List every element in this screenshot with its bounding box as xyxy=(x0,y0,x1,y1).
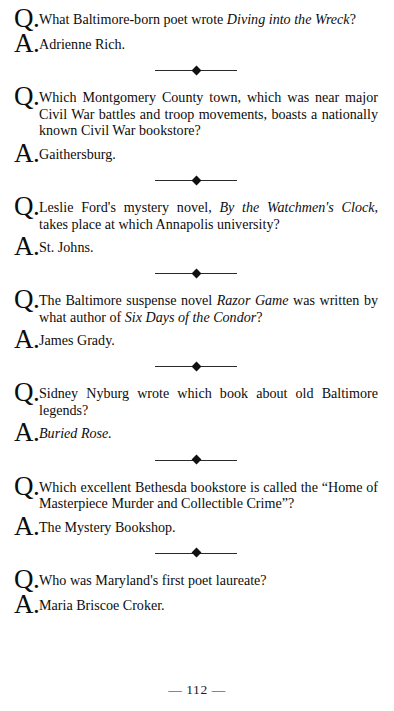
answer-text: Adrienne Rich. xyxy=(38,30,378,52)
question-text: Which Montgomery County town, which was … xyxy=(38,84,378,138)
question-block: Q.Leslie Ford's mystery novel, By the Wa… xyxy=(14,194,378,232)
answer-text: Buried Rose. xyxy=(38,419,378,441)
answer-text: Maria Briscoe Croker. xyxy=(38,591,378,613)
spacer xyxy=(14,443,378,454)
question-marker: Q. xyxy=(14,381,38,404)
question-marker: Q. xyxy=(14,195,38,218)
spacer xyxy=(14,349,378,360)
answer-text: St. Johns. xyxy=(38,233,378,255)
answer-marker: A. xyxy=(14,328,38,351)
diamond-icon xyxy=(191,268,201,278)
diamond-separator xyxy=(14,547,378,560)
question-text: Sidney Nyburg wrote which book about old… xyxy=(38,380,378,418)
spacer xyxy=(14,280,378,287)
qa-list: Q.What Baltimore-born poet wrote Diving … xyxy=(14,6,378,614)
diamond-icon xyxy=(191,65,201,75)
question-text: The Baltimore suspense novel Razor Game … xyxy=(38,287,378,325)
spacer xyxy=(14,467,378,474)
answer-block: A.Maria Briscoe Croker. xyxy=(14,591,378,614)
answer-text: James Grady. xyxy=(38,326,378,348)
answer-marker: A. xyxy=(14,593,38,616)
question-marker: Q. xyxy=(14,85,38,108)
answer-block: A.James Grady. xyxy=(14,326,378,349)
answer-block: A.Buried Rose. xyxy=(14,419,378,442)
spacer xyxy=(14,256,378,267)
question-text: Who was Maryland's first poet laureate? xyxy=(38,567,378,588)
question-text: Which excellent Bethesda bookstore is ca… xyxy=(38,474,378,512)
answer-marker: A. xyxy=(14,235,38,258)
spacer xyxy=(14,187,378,194)
spacer xyxy=(14,77,378,84)
answer-marker: A. xyxy=(14,142,38,165)
answer-text: The Mystery Bookshop. xyxy=(38,513,378,535)
answer-marker: A. xyxy=(14,515,38,538)
answer-block: A.St. Johns. xyxy=(14,233,378,256)
question-block: Q.Which excellent Bethesda bookstore is … xyxy=(14,474,378,512)
answer-block: A.Gaithersburg. xyxy=(14,140,378,163)
answer-block: A.The Mystery Bookshop. xyxy=(14,513,378,536)
book-page: Q.What Baltimore-born poet wrote Diving … xyxy=(0,0,394,711)
question-block: Q.The Baltimore suspense novel Razor Gam… xyxy=(14,287,378,325)
question-text: Leslie Ford's mystery novel, By the Watc… xyxy=(38,194,378,232)
diamond-separator xyxy=(14,267,378,280)
answer-block: A.Adrienne Rich. xyxy=(14,30,378,53)
spacer xyxy=(14,536,378,547)
question-marker: Q. xyxy=(14,568,38,591)
spacer xyxy=(14,163,378,174)
diamond-separator xyxy=(14,64,378,77)
page-number: — 112 — xyxy=(0,682,394,698)
question-marker: Q. xyxy=(14,475,38,498)
question-marker: Q. xyxy=(14,288,38,311)
diamond-icon xyxy=(191,548,201,558)
diamond-icon xyxy=(191,175,201,185)
question-marker: Q. xyxy=(14,7,38,30)
answer-marker: A. xyxy=(14,421,38,444)
question-block: Q.Sidney Nyburg wrote which book about o… xyxy=(14,380,378,418)
question-block: Q.Who was Maryland's first poet laureate… xyxy=(14,567,378,590)
question-text: What Baltimore-born poet wrote Diving in… xyxy=(38,6,378,27)
question-block: Q.Which Montgomery County town, which wa… xyxy=(14,84,378,138)
spacer xyxy=(14,53,378,64)
spacer xyxy=(14,373,378,380)
answer-marker: A. xyxy=(14,32,38,55)
diamond-icon xyxy=(191,362,201,372)
diamond-separator xyxy=(14,360,378,373)
diamond-separator xyxy=(14,454,378,467)
spacer xyxy=(14,560,378,567)
diamond-separator xyxy=(14,174,378,187)
answer-text: Gaithersburg. xyxy=(38,140,378,162)
question-block: Q.What Baltimore-born poet wrote Diving … xyxy=(14,6,378,29)
diamond-icon xyxy=(191,455,201,465)
